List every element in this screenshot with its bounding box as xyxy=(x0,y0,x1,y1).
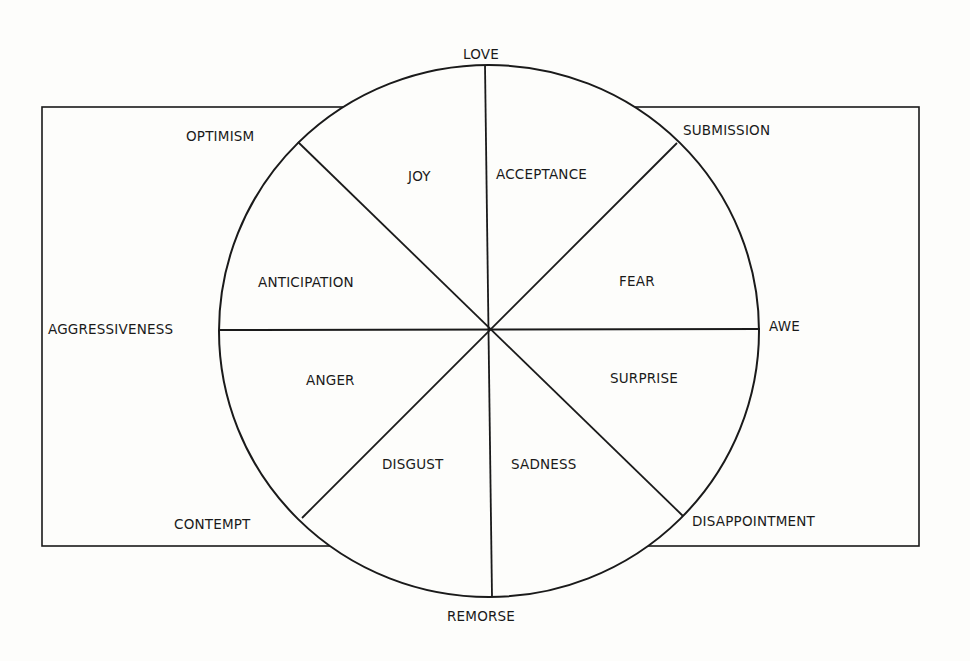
sector-label-acceptance: ACCEPTANCE xyxy=(496,168,587,182)
pole-label-awe: AWE xyxy=(769,320,800,334)
sector-label-joy: JOY xyxy=(408,170,431,184)
sector-label-anticipation: ANTICIPATION xyxy=(258,276,354,290)
sector-label-disgust: DISGUST xyxy=(382,458,444,472)
sector-label-surprise: SURPRISE xyxy=(610,372,678,386)
pole-label-love: LOVE xyxy=(463,48,499,62)
pole-label-optimism: OPTIMISM xyxy=(186,130,254,144)
sector-label-fear: FEAR xyxy=(619,275,655,289)
pole-label-submission: SUBMISSION xyxy=(683,124,770,138)
pole-label-remorse: REMORSE xyxy=(447,610,515,624)
pole-label-aggressiveness: AGGRESSIVENESS xyxy=(48,323,173,337)
sector-label-sadness: SADNESS xyxy=(511,458,577,472)
sector-label-anger: ANGER xyxy=(306,374,355,388)
pole-label-contempt: CONTEMPT xyxy=(174,518,251,532)
pole-label-disappointment: DISAPPOINTMENT xyxy=(692,515,815,529)
